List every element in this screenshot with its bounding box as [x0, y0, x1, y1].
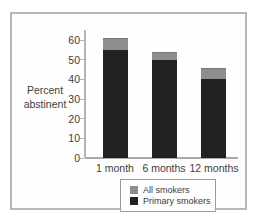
- x-tick-label-6-months: 6 months: [142, 162, 185, 174]
- bar-segment-primary-smokers: [201, 79, 226, 158]
- primary-smokers-swatch-icon: [130, 197, 138, 205]
- legend-item-primary-smokers: Primary smokers: [130, 196, 209, 206]
- plot-area: [0, 0, 261, 158]
- x-tick-label-12-months: 12 months: [189, 162, 238, 174]
- legend: All smokers Primary smokers: [120, 179, 216, 212]
- bar-segment-primary-smokers: [103, 50, 128, 158]
- all-smokers-swatch-icon: [130, 186, 138, 194]
- legend-item-all-smokers: All smokers: [130, 185, 209, 195]
- legend-label-all-smokers: All smokers: [143, 185, 190, 195]
- bar-segment-primary-smokers: [152, 60, 177, 158]
- x-tick-label-1-month: 1 month: [96, 162, 134, 174]
- legend-label-primary-smokers: Primary smokers: [143, 196, 211, 206]
